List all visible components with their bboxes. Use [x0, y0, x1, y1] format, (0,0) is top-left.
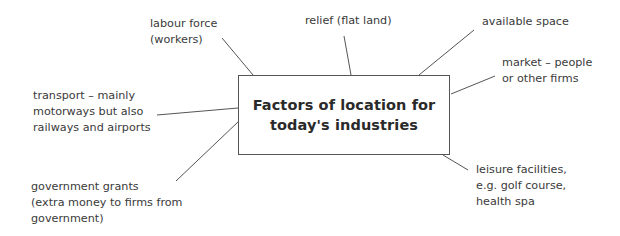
title-line-1: Factors of location for	[253, 95, 436, 115]
connector-labour	[222, 38, 253, 75]
factor-relief: relief (flat land)	[305, 13, 392, 29]
factor-leisure-line-2: e.g. golf course,	[476, 178, 567, 194]
central-topic-box: Factors of location for today's industri…	[238, 75, 450, 155]
connector-space	[419, 30, 474, 75]
factor-transport: transport – mainly motorways but also ra…	[33, 88, 151, 136]
connector-relief	[344, 36, 351, 75]
factor-grants: government grants (extra money to firms …	[31, 179, 183, 227]
factor-labour-line-2: (workers)	[150, 32, 217, 48]
factor-leisure-line-3: health spa	[476, 194, 567, 210]
factor-market-line-2: or other firms	[502, 71, 592, 87]
factor-space: available space	[482, 14, 569, 30]
factor-market-line-1: market – people	[502, 55, 592, 71]
factor-transport-line-3: railways and airports	[33, 120, 151, 136]
title-line-2: today's industries	[253, 115, 436, 135]
factor-grants-line-2: (extra money to firms from	[31, 195, 183, 211]
factor-grants-line-1: government grants	[31, 179, 183, 195]
factor-leisure-line-1: leisure facilities,	[476, 162, 567, 178]
connector-market	[451, 76, 495, 94]
connector-grants	[176, 121, 239, 181]
factor-market: market – people or other firms	[502, 55, 592, 87]
central-topic-title: Factors of location for today's industri…	[253, 95, 436, 135]
factor-labour-line-1: labour force	[150, 16, 217, 32]
factor-grants-line-3: government)	[31, 211, 183, 227]
connector-leisure	[443, 155, 468, 170]
factor-leisure: leisure facilities, e.g. golf course, he…	[476, 162, 567, 210]
connector-transport	[157, 108, 238, 115]
factor-labour: labour force (workers)	[150, 16, 217, 48]
factor-transport-line-2: motorways but also	[33, 104, 151, 120]
factor-transport-line-1: transport – mainly	[33, 88, 151, 104]
factor-relief-line-1: relief (flat land)	[305, 13, 392, 29]
factor-space-line-1: available space	[482, 14, 569, 30]
